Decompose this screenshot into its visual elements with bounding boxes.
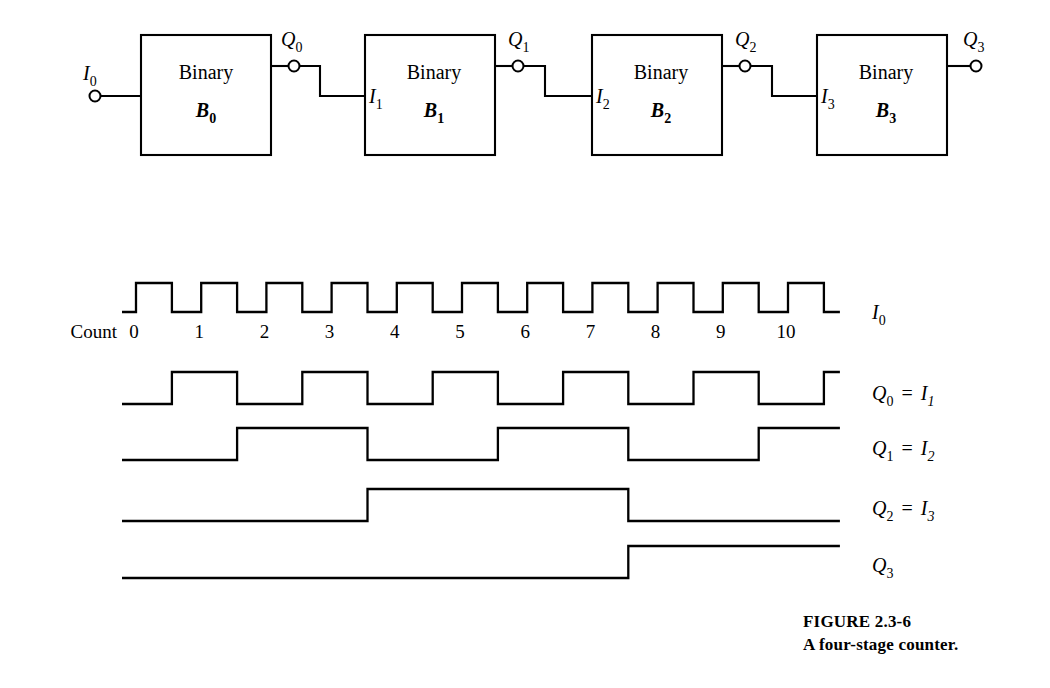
figure-container: Binary B0 I0 Q0 Binary	[0, 0, 1050, 688]
interconnect-1-2	[524, 66, 593, 96]
waveform-label-Q2: Q2=I3	[872, 497, 934, 524]
figure-canvas: Binary B0 I0 Q0 Binary	[0, 0, 1050, 688]
block-body-3[interactable]	[817, 35, 947, 155]
waveform-trace-I0	[122, 283, 840, 312]
count-tick-0: 0	[129, 321, 139, 342]
interconnect-2-3	[751, 66, 818, 96]
block-body-0[interactable]	[141, 35, 271, 155]
count-tick-9: 9	[716, 321, 726, 342]
block-title-1: Binary	[407, 61, 461, 84]
output-label-2: Q2	[735, 28, 756, 55]
block-body-1[interactable]	[365, 35, 495, 155]
output-label-3: Q3	[963, 28, 984, 55]
output-terminal-2[interactable]	[740, 61, 751, 72]
count-tick-4: 4	[390, 321, 400, 342]
figure-caption: FIGURE 2.3-6 A four-stage counter.	[803, 612, 958, 654]
input-label-0: I0	[82, 62, 97, 89]
waveform-trace-Q3	[122, 546, 840, 578]
stage-block-3[interactable]: Binary B3 I3	[817, 35, 947, 155]
count-axis-label: Count	[71, 321, 118, 342]
waveform-label-Q3: Q3	[872, 554, 893, 581]
timing-diagram: Count 012345678910 I0 Q0=I1 Q1=I2 Q2=I3 …	[71, 283, 935, 581]
stage-block-1[interactable]: Binary B1 I1	[365, 35, 495, 155]
output-terminal-3[interactable]	[971, 61, 982, 72]
block-title-3: Binary	[859, 61, 913, 84]
caption-line-1: FIGURE 2.3-6	[803, 612, 911, 631]
count-tick-6: 6	[520, 321, 530, 342]
output-label-1: Q1	[508, 28, 529, 55]
waveform-group	[122, 283, 840, 578]
count-tick-7: 7	[586, 321, 596, 342]
waveform-label-Q1: Q1=I2	[872, 437, 934, 464]
block-title-2: Binary	[634, 61, 688, 84]
count-tick-3: 3	[325, 321, 335, 342]
caption-line-2: A four-stage counter.	[803, 635, 958, 654]
count-tick-1: 1	[194, 321, 204, 342]
waveform-trace-Q2	[122, 489, 840, 521]
stage-block-2[interactable]: Binary B2 I2	[592, 35, 722, 155]
count-tick-group: 012345678910	[129, 321, 795, 342]
interconnect-0-1	[300, 66, 366, 96]
count-tick-8: 8	[651, 321, 661, 342]
output-label-0: Q0	[281, 28, 302, 55]
block-body-2[interactable]	[592, 35, 722, 155]
output-terminal-0[interactable]	[289, 61, 300, 72]
count-tick-5: 5	[455, 321, 465, 342]
block-title-0: Binary	[179, 61, 233, 84]
stage-block-0[interactable]: Binary B0	[141, 35, 271, 155]
input-terminal-0[interactable]	[90, 91, 101, 102]
output-terminal-1[interactable]	[513, 61, 524, 72]
waveform-label-I0: I0	[871, 301, 886, 328]
count-tick-10: 10	[777, 321, 796, 342]
count-tick-2: 2	[260, 321, 270, 342]
waveform-trace-Q1	[122, 428, 840, 460]
block-diagram: Binary B0 I0 Q0 Binary	[82, 28, 984, 155]
waveform-label-Q0: Q0=I1	[872, 382, 934, 409]
waveform-trace-Q0	[122, 372, 840, 404]
